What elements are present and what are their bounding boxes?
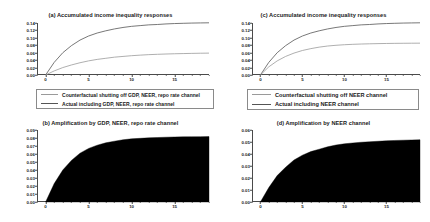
x-tick-mark xyxy=(302,75,303,77)
x-tick-label: 15 xyxy=(384,77,389,82)
legend-line-counterfactual-icon xyxy=(41,94,58,95)
legend-row-actual: Actual including GDP, NEER, repo rate ch… xyxy=(37,99,213,108)
panel-a-title: (a) Accumulated income inequality respon… xyxy=(6,12,215,18)
panel-c-plot: 0.000.020.040.060.080.100.120.14051015 xyxy=(252,23,420,75)
y-tick-label: 0.00 xyxy=(26,200,34,205)
y-tick-label: 0.12 xyxy=(241,28,249,33)
plot-curves xyxy=(37,130,209,202)
x-tick-label: 10 xyxy=(342,77,347,82)
y-tick-label: 0.10 xyxy=(26,35,34,40)
plot-curves xyxy=(252,23,420,75)
legend-line-actual-icon xyxy=(252,104,271,105)
x-tick-label: 5 xyxy=(87,77,89,82)
y-tick-label: 0.09 xyxy=(26,128,34,133)
legend-line-actual-icon xyxy=(41,103,58,104)
panel-c-title: (c) Accumulated income inequality respon… xyxy=(221,12,426,18)
series-line xyxy=(46,23,209,75)
x-tick-mark xyxy=(131,202,132,204)
x-tick-label: 5 xyxy=(301,204,303,209)
series-line xyxy=(46,53,209,75)
x-tick-label: 15 xyxy=(172,204,177,209)
x-tick-label: 5 xyxy=(301,77,303,82)
y-tick-label: 0.04 xyxy=(26,58,34,63)
panel-c-plot-area: 0.000.020.040.060.080.100.120.14051015 xyxy=(252,23,420,75)
panel-a-plot-area: 0.000.020.040.060.080.100.120.14051015 xyxy=(37,23,209,75)
y-tick-label: 0.08 xyxy=(26,43,34,48)
y-tick-label: 0.14 xyxy=(241,21,249,26)
series-line xyxy=(260,23,420,75)
legend-row-actual-c: Actual including NEER channel xyxy=(248,100,418,110)
y-tick-label: 0.05 xyxy=(26,160,34,165)
y-tick-label: 0.14 xyxy=(26,21,34,26)
y-tick-label: 0.08 xyxy=(241,43,249,48)
y-tick-label: 0.06 xyxy=(241,128,249,133)
x-tick-mark xyxy=(344,202,345,204)
x-tick-label: 0 xyxy=(259,77,261,82)
legend-line-counterfactual-icon xyxy=(252,94,271,95)
x-tick-mark xyxy=(344,75,345,77)
legend-row-counterfactual-c: Counterfactual shutting off NEER channel xyxy=(248,90,418,100)
panel-b: (b) Amplification by GDP, NEER, repo rat… xyxy=(6,120,215,216)
y-tick-label: 0.06 xyxy=(26,50,34,55)
x-tick-mark xyxy=(260,75,261,77)
y-tick-label: 0.00 xyxy=(241,73,249,78)
plot-curves xyxy=(37,23,209,75)
x-tick-label: 10 xyxy=(342,204,347,209)
y-tick-label: 0.02 xyxy=(241,65,249,70)
panel-c-legend: Counterfactual shutting off NEER channel… xyxy=(247,89,419,110)
panel-d-plot-area: 0.000.010.020.030.040.050.06051015 xyxy=(252,130,420,202)
panel-d: (d) Amplification by NEER channel 0.000.… xyxy=(221,120,426,216)
x-tick-label: 0 xyxy=(44,77,46,82)
y-tick-label: 0.02 xyxy=(241,176,249,181)
figure-container: (a) Accumulated income inequality respon… xyxy=(0,0,430,222)
x-tick-mark xyxy=(386,75,387,77)
panel-a-legend: Counterfactual shutting off GDP, NEER, r… xyxy=(36,89,214,109)
x-tick-mark xyxy=(45,202,46,204)
area-fill xyxy=(260,140,420,202)
y-tick-label: 0.03 xyxy=(241,164,249,169)
y-tick-label: 0.06 xyxy=(26,152,34,157)
plot-curves xyxy=(252,130,420,202)
y-tick-label: 0.06 xyxy=(241,50,249,55)
y-tick-label: 0.04 xyxy=(26,168,34,173)
legend-label-actual: Actual including GDP, NEER, repo rate ch… xyxy=(62,101,175,107)
x-tick-mark xyxy=(174,75,175,77)
y-tick-label: 0.01 xyxy=(26,192,34,197)
panel-a-plot: 0.000.020.040.060.080.100.120.14051015 xyxy=(37,23,209,75)
x-tick-mark xyxy=(131,75,132,77)
legend-label-counterfactual-c: Counterfactual shutting off NEER channel xyxy=(275,92,387,98)
y-tick-label: 0.00 xyxy=(26,73,34,78)
y-tick-label: 0.01 xyxy=(241,188,249,193)
y-tick-label: 0.02 xyxy=(26,184,34,189)
panel-b-plot-area: 0.000.010.020.030.040.050.060.070.080.09… xyxy=(37,130,209,202)
series-line xyxy=(260,43,420,75)
area-fill xyxy=(46,137,209,202)
y-tick-label: 0.00 xyxy=(241,200,249,205)
panel-a: (a) Accumulated income inequality respon… xyxy=(6,12,215,84)
x-tick-label: 0 xyxy=(259,204,261,209)
y-tick-label: 0.07 xyxy=(26,144,34,149)
panel-d-title: (d) Amplification by NEER channel xyxy=(221,120,426,126)
y-tick-label: 0.10 xyxy=(241,35,249,40)
x-tick-label: 15 xyxy=(384,204,389,209)
legend-label-counterfactual: Counterfactual shutting off GDP, NEER, r… xyxy=(62,92,200,98)
x-tick-label: 0 xyxy=(44,204,46,209)
x-tick-mark xyxy=(88,202,89,204)
y-tick-label: 0.04 xyxy=(241,152,249,157)
legend-row-counterfactual: Counterfactual shutting off GDP, NEER, r… xyxy=(37,90,213,99)
x-tick-mark xyxy=(174,202,175,204)
panel-b-title: (b) Amplification by GDP, NEER, repo rat… xyxy=(6,120,215,126)
y-tick-label: 0.08 xyxy=(26,136,34,141)
panel-b-plot: 0.000.010.020.030.040.050.060.070.080.09… xyxy=(37,130,209,202)
x-tick-label: 15 xyxy=(172,77,177,82)
x-tick-mark xyxy=(302,202,303,204)
y-tick-label: 0.03 xyxy=(26,176,34,181)
panel-c: (c) Accumulated income inequality respon… xyxy=(221,12,426,84)
x-tick-mark xyxy=(88,75,89,77)
y-tick-label: 0.02 xyxy=(26,65,34,70)
y-tick-label: 0.05 xyxy=(241,140,249,145)
x-tick-label: 10 xyxy=(129,204,134,209)
legend-label-actual-c: Actual including NEER channel xyxy=(275,101,359,107)
x-tick-mark xyxy=(260,202,261,204)
x-tick-mark xyxy=(386,202,387,204)
